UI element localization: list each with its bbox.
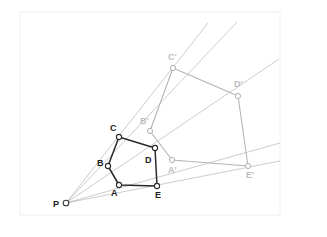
vertex-E[interactable] bbox=[154, 183, 159, 188]
vertex-C-prime[interactable] bbox=[170, 65, 175, 70]
label-D-prime: D' bbox=[234, 79, 243, 89]
label-C: C bbox=[110, 123, 117, 133]
label-A: A bbox=[111, 188, 118, 198]
vertex-B-prime[interactable] bbox=[147, 128, 152, 133]
vertex-B[interactable] bbox=[105, 163, 110, 168]
vertex-D-prime[interactable] bbox=[235, 93, 240, 98]
label-P: P bbox=[53, 199, 59, 209]
vertex-P-center[interactable] bbox=[63, 200, 69, 206]
vertex-D[interactable] bbox=[152, 145, 157, 150]
homothety-figure: A' B' C' D' E' A B C D E P bbox=[0, 0, 327, 237]
vertex-A[interactable] bbox=[116, 182, 121, 187]
label-D: D bbox=[145, 155, 152, 165]
vertex-A-prime[interactable] bbox=[169, 157, 174, 162]
label-C-prime: C' bbox=[168, 52, 177, 62]
label-B: B bbox=[97, 158, 104, 168]
label-E: E bbox=[155, 190, 161, 200]
vertex-E-prime[interactable] bbox=[245, 163, 250, 168]
label-A-prime: A' bbox=[168, 165, 177, 175]
label-B-prime: B' bbox=[140, 116, 149, 126]
vertex-C[interactable] bbox=[116, 134, 121, 139]
label-E-prime: E' bbox=[246, 170, 254, 180]
diagram-canvas: A' B' C' D' E' A B C D E P bbox=[0, 0, 327, 237]
